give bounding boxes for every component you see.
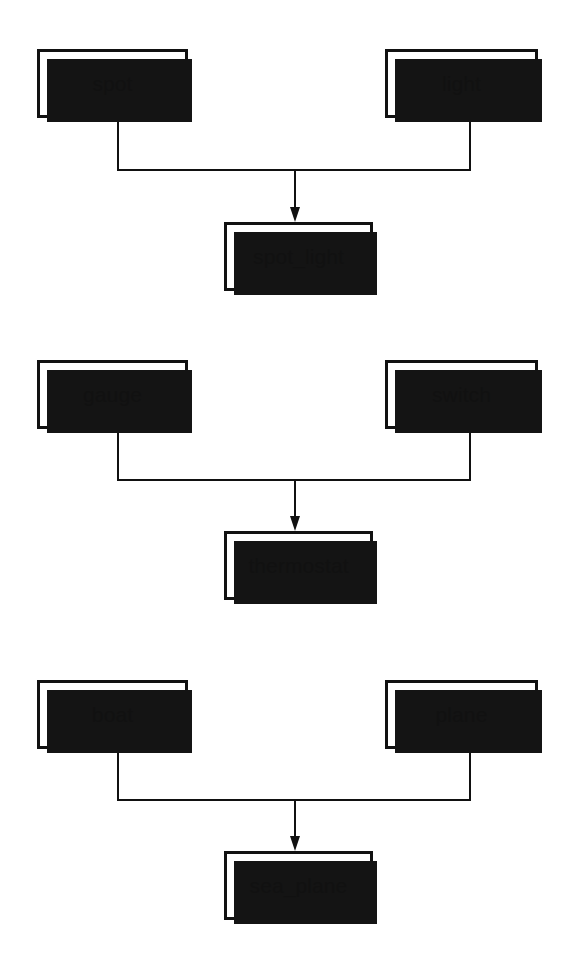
diagram-root: spot light spot_light gauge switch therm…	[0, 0, 576, 978]
arrowhead-icon	[290, 207, 300, 222]
node-gauge[interactable]: gauge	[37, 360, 188, 429]
connector-layer	[0, 0, 576, 978]
connector-bracket	[118, 429, 470, 480]
arrowhead-icon	[290, 836, 300, 851]
node-sea-plane[interactable]: sea_plane	[224, 851, 373, 920]
connector-bracket	[118, 118, 470, 170]
node-label: spot	[92, 73, 132, 94]
node-label: thermostat	[248, 555, 348, 576]
node-thermostat[interactable]: thermostat	[224, 531, 373, 600]
node-label: light	[442, 73, 481, 94]
node-label: plane	[436, 704, 488, 725]
node-switch[interactable]: switch	[385, 360, 538, 429]
node-spot-light[interactable]: spot_light	[224, 222, 373, 291]
connector-bracket	[118, 749, 470, 800]
node-boat[interactable]: boat	[37, 680, 188, 749]
arrowhead-icon	[290, 516, 300, 531]
node-label: switch	[432, 384, 491, 405]
node-label: boat	[92, 704, 133, 725]
node-label: sea_plane	[250, 875, 348, 896]
node-label: spot_light	[253, 246, 344, 267]
node-label: gauge	[83, 384, 142, 405]
node-light[interactable]: light	[385, 49, 538, 118]
node-plane[interactable]: plane	[385, 680, 538, 749]
node-spot[interactable]: spot	[37, 49, 188, 118]
